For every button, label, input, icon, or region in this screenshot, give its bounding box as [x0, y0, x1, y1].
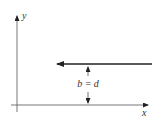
- y-axis-label: y: [21, 10, 27, 21]
- dimension-label: b = d: [77, 78, 100, 89]
- x-axis-label: x: [141, 107, 147, 118]
- diagram-canvas: y x b = d: [0, 0, 160, 121]
